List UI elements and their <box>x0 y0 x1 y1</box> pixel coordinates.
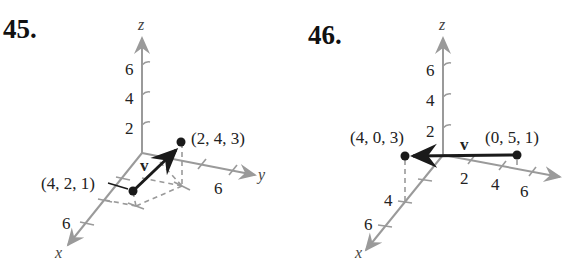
initial-point-dot <box>129 187 138 196</box>
z-tick-2: 2 <box>125 119 134 138</box>
z-tick-2: 2 <box>426 122 435 141</box>
terminal-point-label: (4, 0, 3) <box>350 128 404 147</box>
vector-label: v <box>140 156 149 175</box>
y-tick-2: 2 <box>460 169 469 188</box>
3d-axes-diagram: z 2 4 6 2 4 6 4 6 x v (0, 5, 1) (4, 0, 3… <box>280 0 565 272</box>
y-axis <box>142 153 255 175</box>
x-axis <box>68 153 142 245</box>
vector-v <box>413 155 517 156</box>
initial-point-dot <box>513 151 522 160</box>
initial-point-label: (0, 5, 1) <box>485 128 539 147</box>
terminal-point-dot <box>177 138 186 147</box>
figure-46: 46. z 2 4 <box>280 0 565 272</box>
x-tick-4: 4 <box>384 191 393 210</box>
terminal-point-label: (2, 4, 3) <box>191 129 245 148</box>
vector-label: v <box>460 135 469 154</box>
x-axis-label: x <box>354 244 362 261</box>
x-axis-label: x <box>54 244 62 261</box>
y-tick-4: 4 <box>491 175 500 194</box>
x-tick-6: 6 <box>62 214 71 233</box>
z-tick-4: 4 <box>426 91 435 110</box>
x-tick-6: 6 <box>364 215 373 234</box>
z-axis-label: z <box>438 16 446 33</box>
terminal-point-dot <box>401 152 410 161</box>
y-axis-label: y <box>256 166 266 184</box>
figure-45: 45. <box>0 0 280 272</box>
z-tick-4: 4 <box>125 89 134 108</box>
y-tick-6: 6 <box>214 179 223 198</box>
z-axis-label: z <box>137 16 145 33</box>
initial-point-label: (4, 2, 1) <box>41 174 95 193</box>
z-tick-6: 6 <box>125 60 134 79</box>
3d-axes-diagram: z y x 2 4 6 6 6 v (4, 2, 1) (2, 4, 3) <box>0 0 280 272</box>
z-tick-6: 6 <box>426 61 435 80</box>
y-tick-6: 6 <box>520 182 529 201</box>
